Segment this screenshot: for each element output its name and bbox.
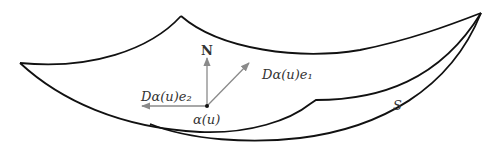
surface-front-edge xyxy=(20,13,481,132)
surface-top-right-edge xyxy=(181,13,481,54)
surface-top-left-edge xyxy=(20,16,181,64)
tangent-vector-e1 xyxy=(207,63,249,106)
tangent1-label: Dα(u)e₁ xyxy=(261,67,313,82)
surface-diagram: N Dα(u)e₁ Dα(u)e₂ α(u) S xyxy=(0,0,498,151)
tangent2-label: Dα(u)e₂ xyxy=(140,89,192,104)
surface-label: S xyxy=(393,98,402,113)
base-point xyxy=(205,104,209,108)
point-label: α(u) xyxy=(193,112,220,127)
normal-label: N xyxy=(201,43,213,58)
